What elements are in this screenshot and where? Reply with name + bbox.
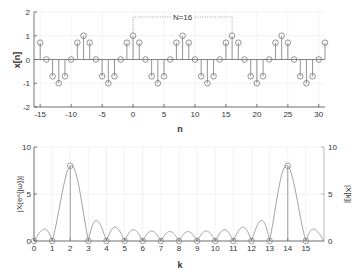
y-tick-label: -2	[23, 103, 31, 112]
y-tick-label: 0	[26, 56, 31, 65]
x-tick-label: 6	[141, 244, 146, 253]
x-tick-label: 20	[252, 110, 261, 119]
x-tick-label: 8	[177, 244, 182, 253]
x-tick-label: 0	[131, 110, 136, 119]
period-annotation-label: N=16	[173, 13, 193, 22]
x-tick-label: -5	[99, 110, 107, 119]
y-tick-label-left: 10	[22, 143, 31, 152]
x-tick-label: 13	[265, 244, 274, 253]
x-tick-label: 15	[221, 110, 230, 119]
x-tick-label: 30	[314, 110, 323, 119]
bottom-ylabel-right: |X[k]|	[344, 185, 353, 203]
x-tick-label: 10	[211, 244, 220, 253]
y-tick-label: 2	[26, 8, 31, 17]
x-tick-label: 25	[283, 110, 292, 119]
x-tick-label: 3	[86, 244, 91, 253]
x-tick-label: 2	[68, 244, 73, 253]
x-tick-label: 4	[104, 244, 109, 253]
bottom-xlabel: k	[177, 260, 183, 270]
x-tick-label: -10	[65, 110, 77, 119]
x-tick-label: 15	[301, 244, 310, 253]
y-tick-label: -1	[23, 79, 31, 88]
x-tick-label: 14	[283, 244, 292, 253]
top-ylabel: x[n]	[12, 52, 22, 69]
x-tick-label: 11	[229, 244, 238, 253]
x-tick-label: 1	[50, 244, 55, 253]
top-xlabel: n	[177, 124, 183, 134]
x-tick-label: -15	[34, 110, 46, 119]
y-tick-label: 1	[26, 32, 31, 41]
top-plot-axes: -15-10-5051015202530-2-1012	[23, 8, 328, 119]
y-tick-label-right: 0	[328, 237, 333, 246]
bottom-plot-axes: 012345678910111213141500551010	[22, 143, 337, 253]
y-tick-label-right: 5	[328, 190, 333, 199]
y-tick-label-right: 10	[328, 143, 337, 152]
x-tick-label: 0	[32, 244, 37, 253]
x-tick-label: 12	[247, 244, 256, 253]
x-tick-label: 5	[162, 110, 167, 119]
x-tick-label: 5	[122, 244, 127, 253]
x-tick-label: 10	[191, 110, 200, 119]
bottom-ylabel-left: |X(e^{jω})|	[15, 176, 24, 212]
x-tick-label: 9	[195, 244, 200, 253]
x-tick-label: 7	[159, 244, 164, 253]
figure: -15-10-5051015202530-2-1012 012345678910…	[0, 0, 360, 280]
y-tick-label-left: 0	[27, 237, 32, 246]
y-tick-label-left: 5	[27, 190, 32, 199]
